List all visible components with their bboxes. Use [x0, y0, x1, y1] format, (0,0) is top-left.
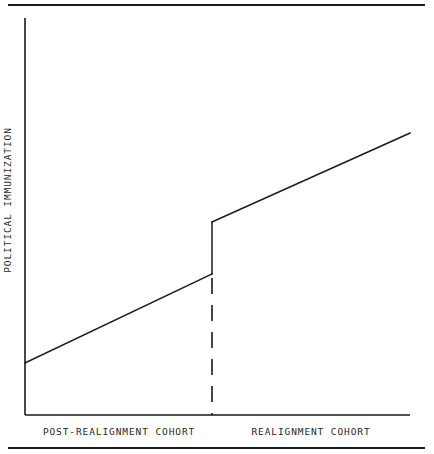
x-group-label-realignment-cohort: REALIGNMENT COHORT — [212, 425, 410, 439]
x-group-label-post-realignment-cohort: POST-REALIGNMENT COHORT — [26, 425, 212, 439]
plot-area — [0, 0, 434, 454]
trend-line-left — [25, 274, 212, 363]
figure-container: POLITICAL IMMUNIZATION POST-REALIGNMENT … — [0, 0, 434, 454]
trend-line-right — [212, 133, 410, 222]
